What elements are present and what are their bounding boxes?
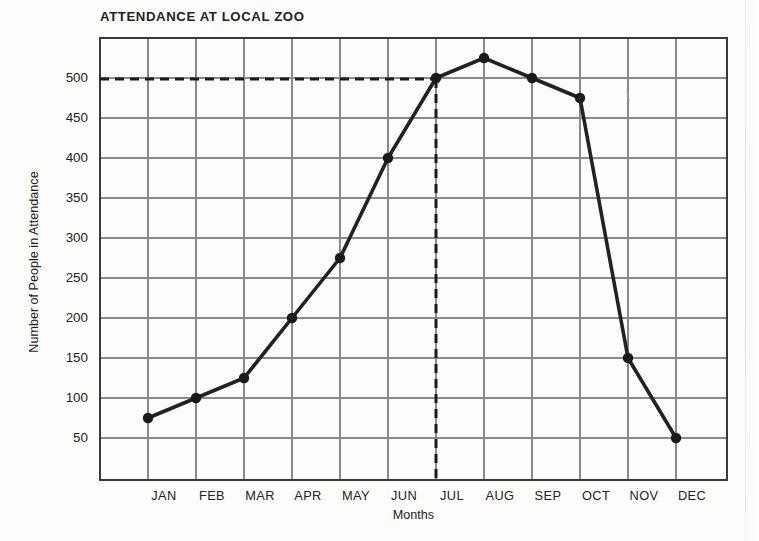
data-point-nov	[623, 353, 633, 363]
data-point-may	[335, 253, 345, 263]
data-point-oct	[575, 93, 585, 103]
line-chart: Number of People in Attendance Months 50…	[0, 0, 759, 541]
data-point-feb	[191, 393, 201, 403]
data-point-aug	[479, 53, 489, 63]
plot-frame	[100, 38, 727, 480]
horizontal-gridlines	[100, 78, 727, 438]
vertical-gridlines	[148, 38, 676, 480]
data-series-attendance	[148, 58, 676, 438]
data-point-jan	[143, 413, 153, 423]
data-point-jun	[383, 153, 393, 163]
data-point-jul	[431, 73, 441, 83]
data-point-sep	[527, 73, 537, 83]
chart-canvas	[0, 0, 759, 541]
data-point-apr	[287, 313, 297, 323]
data-point-dec	[671, 433, 681, 443]
data-point-mar	[239, 373, 249, 383]
